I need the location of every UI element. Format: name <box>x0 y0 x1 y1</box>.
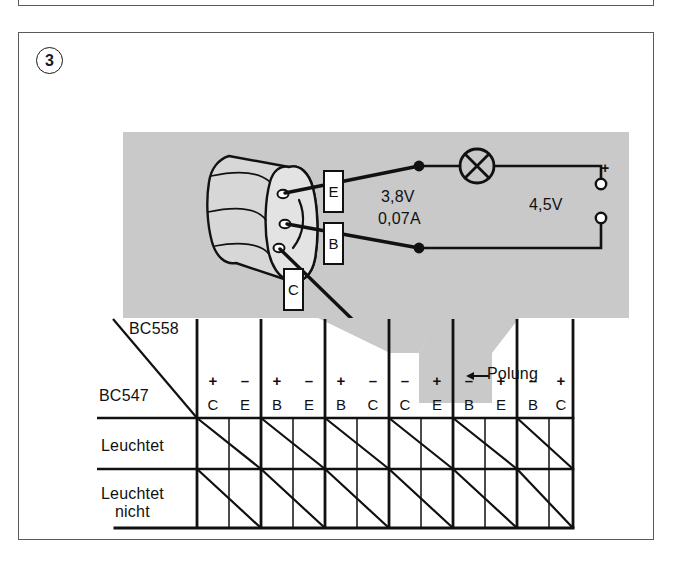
header-sign-g1-c2: – <box>231 373 259 388</box>
page-root: 3 <box>0 0 673 564</box>
header-sign-g5-c2: + <box>487 373 515 388</box>
header-pin-g2-c2: E <box>295 397 323 412</box>
table-axis-label-bc547: BC547 <box>99 387 149 405</box>
header-pin-g4-c2: E <box>423 397 451 412</box>
header-sign-g4-c2: + <box>423 373 451 388</box>
polarity-table: BC558 BC547 Leuchtet Leuchtet nicht Polu… <box>97 317 617 557</box>
header-sign-g6-c2: + <box>547 373 575 388</box>
table-axis-label-bc558: BC558 <box>129 320 179 338</box>
header-sign-g5-c1: – <box>455 373 483 388</box>
header-pin-g5-c2: E <box>487 397 515 412</box>
header-sign-g4-c1: – <box>391 373 419 388</box>
header-pin-g5-c1: B <box>455 397 483 412</box>
header-sign-g6-c1: – <box>519 373 547 388</box>
table-row-label-leuchtet: Leuchtet <box>101 437 164 455</box>
header-sign-g1-c1: + <box>199 373 227 388</box>
table-row-label-leuchtet-nicht-line2: nicht <box>115 503 150 521</box>
header-pin-g4-c1: C <box>391 397 419 412</box>
header-sign-g3-c2: – <box>359 373 387 388</box>
exercise-panel: 3 <box>18 32 654 540</box>
header-sign-g2-c2: – <box>295 373 323 388</box>
table-grid <box>97 317 617 557</box>
header-pin-g2-c1: B <box>263 397 291 412</box>
header-pin-g1-c1: C <box>199 397 227 412</box>
table-row-label-leuchtet-nicht-line1: Leuchtet <box>101 485 164 503</box>
previous-exercise-panel-fragment <box>18 0 654 6</box>
header-sign-g3-c1: + <box>327 373 355 388</box>
header-pin-g3-c2: C <box>359 397 387 412</box>
header-pin-g6-c1: B <box>519 397 547 412</box>
header-pin-g6-c2: C <box>547 397 575 412</box>
header-pin-g1-c2: E <box>231 397 259 412</box>
header-sign-g2-c1: + <box>263 373 291 388</box>
header-pin-g3-c1: B <box>327 397 355 412</box>
